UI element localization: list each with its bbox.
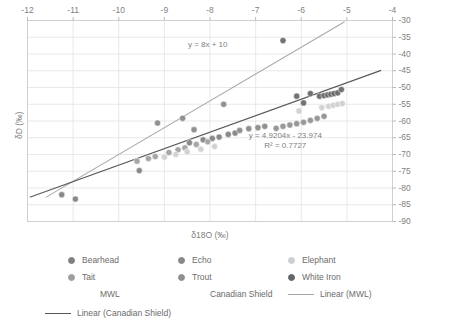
- x-axis-title: δ18O (‰): [0, 230, 420, 240]
- y-tick-label: -65: [399, 132, 411, 142]
- data-point: [193, 141, 199, 147]
- legend-marker-icon: [288, 274, 295, 281]
- y-tick-label: -50: [399, 82, 411, 92]
- data-point: [154, 120, 160, 126]
- data-point: [152, 153, 158, 159]
- legend-label: Canadian Shield: [210, 289, 272, 299]
- data-point: [136, 167, 142, 173]
- y-tick-label: -90: [399, 216, 411, 226]
- data-point: [300, 119, 306, 125]
- legend-marker-icon: [178, 274, 185, 281]
- legend-label: Elephant: [302, 255, 336, 265]
- chart-legend: BearheadEchoElephantTaitTroutWhite IronM…: [0, 252, 450, 333]
- data-point: [134, 158, 140, 164]
- data-point: [198, 146, 204, 152]
- annotation-text: R² = 0.7727: [230, 141, 340, 151]
- x-tick-label: -10: [99, 5, 139, 15]
- data-point: [307, 90, 313, 96]
- legend-item[interactable]: White Iron: [288, 272, 341, 282]
- x-tick-label: -5: [327, 5, 367, 15]
- legend-label: Tait: [82, 272, 95, 282]
- legend-item[interactable]: Linear (Canadian Shield): [45, 308, 171, 318]
- y-tick-label: -80: [399, 183, 411, 193]
- y-tick-label: -85: [399, 199, 411, 209]
- y-tick-label: -55: [399, 99, 411, 109]
- x-tick-label: -4: [373, 5, 413, 15]
- data-point: [287, 122, 293, 128]
- isotope-scatter-chart: -12-11-10-9-8-7-6-5-4 -30-35-40-45-50-55…: [0, 0, 450, 333]
- data-point: [72, 196, 78, 202]
- data-point: [280, 123, 286, 129]
- data-point: [280, 38, 286, 44]
- data-point: [211, 143, 217, 149]
- data-point: [59, 192, 65, 198]
- data-point: [184, 149, 190, 155]
- x-tick-label: -6: [281, 5, 321, 15]
- legend-item[interactable]: MWL: [68, 289, 120, 299]
- data-point: [216, 134, 222, 140]
- data-point: [145, 155, 151, 161]
- y-tick-label: -60: [399, 116, 411, 126]
- data-point: [321, 113, 327, 119]
- legend-label: Linear (MWL): [320, 289, 371, 299]
- legend-line-icon: [288, 294, 314, 295]
- annotation-text: y = 8x + 10: [153, 40, 263, 50]
- legend-item[interactable]: Bearhead: [68, 255, 119, 265]
- y-tick-label: -75: [399, 166, 411, 176]
- legend-item[interactable]: Trout: [178, 272, 212, 282]
- legend-spacer: [178, 294, 204, 295]
- data-point: [296, 108, 302, 114]
- x-tick-label: -7: [236, 5, 276, 15]
- legend-spacer: [68, 294, 94, 295]
- legend-label: Echo: [192, 255, 211, 265]
- y-tick-label: -45: [399, 65, 411, 75]
- legend-label: Bearhead: [82, 255, 119, 265]
- data-point: [262, 123, 268, 129]
- data-point: [191, 127, 197, 133]
- legend-marker-icon: [68, 274, 75, 281]
- x-tick-label: -12: [8, 5, 48, 15]
- legend-item[interactable]: Linear (MWL): [288, 289, 371, 299]
- data-point: [339, 100, 345, 106]
- data-point: [307, 117, 313, 123]
- data-point: [294, 121, 300, 127]
- legend-label: Linear (Canadian Shield): [77, 308, 171, 318]
- data-point: [319, 105, 325, 111]
- data-point: [294, 93, 300, 99]
- data-point: [221, 101, 227, 107]
- data-point: [166, 149, 172, 155]
- data-point: [338, 86, 344, 92]
- legend-item[interactable]: Echo: [178, 255, 211, 265]
- y-tick-label: -40: [399, 49, 411, 59]
- legend-item[interactable]: Canadian Shield: [178, 289, 272, 299]
- x-tick-label: -9: [144, 5, 184, 15]
- legend-label: White Iron: [302, 272, 341, 282]
- x-tick-label: -8: [190, 5, 230, 15]
- legend-marker-icon: [178, 257, 185, 264]
- legend-line-icon: [45, 313, 71, 314]
- data-point: [300, 100, 306, 106]
- y-axis-title: δD (‰): [14, 112, 24, 139]
- y-tick-label: -30: [399, 15, 411, 25]
- legend-marker-icon: [288, 257, 295, 264]
- data-point: [314, 115, 320, 121]
- legend-item[interactable]: Elephant: [288, 255, 336, 265]
- y-tick-label: -70: [399, 149, 411, 159]
- data-point: [205, 139, 211, 145]
- data-point: [180, 115, 186, 121]
- legend-marker-icon: [68, 257, 75, 264]
- y-tick-label: -35: [399, 32, 411, 42]
- legend-item[interactable]: Tait: [68, 272, 95, 282]
- data-point: [161, 154, 167, 160]
- annotation-text: y = 4.9204x - 23.974: [230, 131, 340, 141]
- legend-label: Trout: [192, 272, 212, 282]
- data-point: [173, 151, 179, 157]
- legend-label: MWL: [100, 289, 120, 299]
- x-tick-label: -11: [53, 5, 93, 15]
- data-point: [186, 140, 192, 146]
